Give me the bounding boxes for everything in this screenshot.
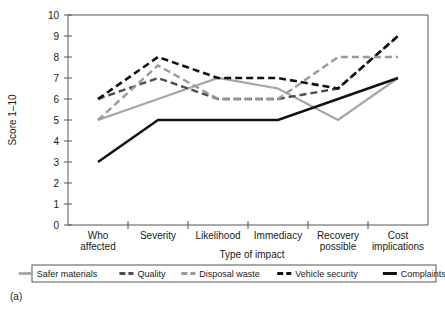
legend-label: Disposal waste — [199, 269, 260, 279]
legend-label: Safer materials — [37, 269, 98, 279]
legend-item-complaints[interactable]: Complaints — [383, 269, 445, 279]
legend-label: Vehicle security — [295, 269, 358, 279]
x-tick-label: Immediacy — [254, 230, 302, 241]
x-tick-label: possible — [320, 241, 357, 252]
series-line-vehicle-security — [98, 36, 398, 99]
y-tick-label: 5 — [53, 115, 59, 126]
legend-label: Complaints — [401, 269, 445, 279]
figure-container: 012345678910 WhoaffectedSeverityLikeliho… — [0, 0, 445, 309]
x-axis-title: Type of impact — [219, 249, 284, 260]
chart-legend: Safer materialsQualityDisposal wasteVehi… — [19, 265, 445, 282]
legend-item-safer-materials[interactable]: Safer materials — [19, 269, 98, 279]
x-tick-label: Recovery — [317, 230, 359, 241]
y-tick-label: 0 — [53, 220, 59, 231]
x-tick-label: Severity — [140, 230, 176, 241]
legend-item-vehicle-security[interactable]: Vehicle security — [277, 269, 358, 279]
x-tick-label: Cost — [388, 230, 409, 241]
x-tick-label: affected — [80, 241, 115, 252]
y-tick-label: 1 — [53, 199, 59, 210]
y-tick-label: 4 — [53, 136, 59, 147]
y-tick-label: 7 — [53, 73, 59, 84]
y-tick-label: 8 — [53, 52, 59, 63]
line-chart: 012345678910 WhoaffectedSeverityLikeliho… — [0, 0, 445, 309]
legend-item-quality[interactable]: Quality — [119, 269, 166, 279]
x-tick-label: implications — [372, 241, 424, 252]
y-tick-label: 9 — [53, 31, 59, 42]
y-tick-label: 6 — [53, 94, 59, 105]
panel-label: (a) — [10, 291, 22, 302]
x-tick-label: Likelihood — [195, 230, 240, 241]
y-tick-label: 10 — [48, 10, 60, 21]
y-tick-label: 2 — [53, 178, 59, 189]
y-tick-label: 3 — [53, 157, 59, 168]
series-line-complaints — [98, 78, 398, 162]
x-tick-label: Who — [88, 230, 109, 241]
y-axis-title: Score 1–10 — [7, 94, 18, 146]
series-group — [98, 36, 398, 162]
legend-item-disposal-waste[interactable]: Disposal waste — [181, 269, 260, 279]
series-line-quality — [98, 36, 398, 99]
legend-label: Quality — [137, 269, 166, 279]
